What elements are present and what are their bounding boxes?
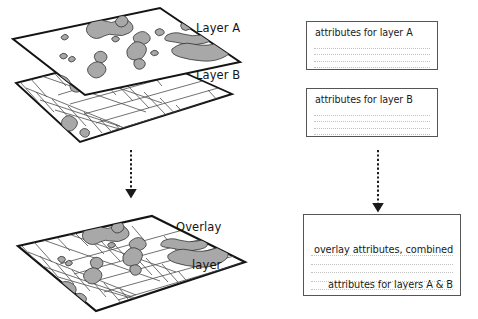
attribute-table-layer-a-rows (314, 43, 430, 64)
label-overlay-line1: Overlay (176, 221, 221, 234)
table-row (311, 256, 453, 264)
label-overlay-layer: Overlay layer (176, 196, 221, 296)
attribute-table-layer-a-title: attributes for layer A (315, 27, 413, 38)
table-row (311, 290, 453, 297)
table-row (314, 135, 430, 140)
attribute-table-layer-a: attributes for layer A (306, 21, 438, 70)
attribute-table-layer-b-rows (314, 110, 430, 131)
diagram-canvas: Layer A Layer B Overlay layer attributes… (0, 0, 478, 319)
attribute-table-layer-b-title: attributes for layer B (315, 94, 413, 105)
attribute-table-overlay-rows (311, 248, 453, 290)
table-row (311, 282, 453, 290)
attribute-table-overlay: overlay attributes, combined attributes … (303, 214, 461, 296)
table-row (311, 248, 453, 256)
label-overlay-line2: layer (176, 259, 221, 272)
attribute-table-layer-b: attributes for layer B (306, 88, 438, 137)
table-row (311, 265, 453, 273)
table-row (314, 68, 430, 73)
table-row (311, 273, 453, 281)
label-layer-b: Layer B (196, 68, 240, 82)
label-layer-a: Layer A (196, 21, 240, 35)
